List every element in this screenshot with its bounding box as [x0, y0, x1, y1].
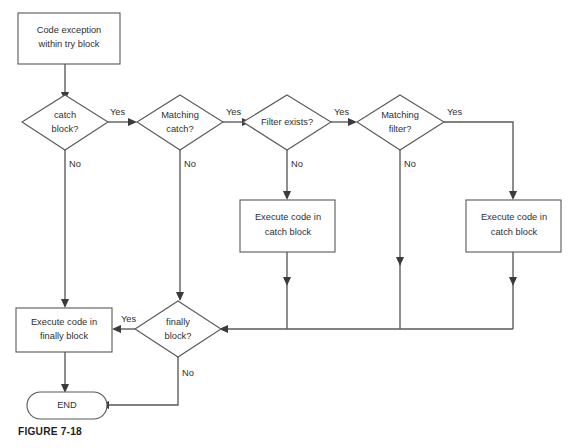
edge-label-finally-yes: Yes: [121, 314, 137, 324]
finally-block-decision-shape: [135, 301, 221, 357]
start-box-label-line1: Code exception: [37, 25, 102, 35]
edge-label-catch-yes: Yes: [110, 107, 126, 117]
edge-label-matching-filter-no: No: [404, 159, 416, 169]
matching-catch-decision-label-line2: catch?: [166, 124, 193, 134]
node-matching-filter-decision: Matching filter?: [357, 95, 444, 150]
arrowhead-matching-catch-no: [176, 292, 184, 301]
edge-label-matching-catch-yes: Yes: [226, 107, 242, 117]
catch-block-decision-label-line2: block?: [52, 124, 79, 134]
node-execute-finally-block: Execute code in finally block: [16, 308, 112, 352]
execute-catch-block-right-shape: [466, 200, 561, 252]
edge-label-matching-filter-yes: Yes: [447, 107, 463, 117]
execute-finally-block-label-line1: Execute code in: [31, 317, 97, 327]
execute-finally-block-shape: [16, 308, 112, 352]
arrowhead-catch-yes: [128, 118, 137, 126]
arrowhead-matching-filter-no: [396, 257, 404, 266]
node-catch-block-decision: catch block?: [22, 95, 108, 150]
flowchart-figure: Code exception within try block catch bl…: [0, 0, 576, 448]
connector-matching-filter-yes: [444, 122, 513, 194]
start-box-label-line2: within try block: [38, 39, 100, 49]
arrowhead-right-catch-to-bus: [509, 277, 517, 286]
matching-catch-decision-label-line1: Matching: [161, 110, 199, 120]
catch-block-decision-shape: [22, 95, 108, 150]
catch-block-decision-label-line1: catch: [54, 110, 76, 120]
filter-exists-decision-label-line1: Filter exists?: [261, 117, 313, 127]
arrowhead-finally-yes: [112, 325, 121, 333]
node-execute-catch-block-right: Execute code in catch block: [466, 200, 561, 252]
node-execute-catch-block-left: Execute code in catch block: [240, 200, 335, 252]
flowchart-canvas: Code exception within try block catch bl…: [0, 0, 576, 448]
node-end-terminator: END: [27, 392, 107, 419]
execute-finally-block-label-line2: finally block: [40, 331, 88, 341]
edge-label-finally-no: No: [182, 368, 194, 378]
arrowhead-matching-filter-yes: [509, 191, 517, 200]
node-matching-catch-decision: Matching catch?: [137, 95, 223, 150]
node-finally-block-decision: finally block?: [135, 301, 221, 357]
end-terminator-label: END: [57, 400, 77, 410]
arrowhead-filter-exists-no: [283, 191, 291, 200]
node-start-box: Code exception within try block: [18, 13, 120, 64]
node-filter-exists-decision: Filter exists?: [243, 95, 331, 150]
edge-label-filter-exists-yes: Yes: [334, 107, 350, 117]
edge-label-filter-exists-no: No: [291, 159, 303, 169]
edge-label-matching-catch-no: No: [184, 159, 196, 169]
connector-finally-no: [107, 357, 178, 405]
execute-catch-block-left-label-line2: catch block: [265, 227, 312, 237]
edge-label-catch-no: No: [69, 159, 81, 169]
execute-catch-block-left-label-line1: Execute code in: [255, 212, 321, 222]
arrowhead-catch-no: [61, 299, 69, 308]
execute-catch-block-left-shape: [240, 200, 335, 252]
figure-caption: FIGURE 7-18: [18, 426, 82, 437]
execute-catch-block-right-label-line2: catch block: [491, 227, 538, 237]
matching-filter-decision-label-line1: Matching: [381, 110, 419, 120]
arrowhead-filter-exists-yes: [348, 118, 357, 126]
matching-filter-decision-shape: [357, 95, 444, 150]
execute-catch-block-right-label-line1: Execute code in: [481, 212, 547, 222]
arrowhead-left-catch-to-bus: [283, 277, 291, 286]
matching-filter-decision-label-line2: filter?: [389, 124, 412, 134]
finally-block-decision-label-line1: finally: [166, 317, 190, 327]
matching-catch-decision-shape: [137, 95, 223, 150]
finally-block-decision-label-line2: block?: [165, 331, 192, 341]
